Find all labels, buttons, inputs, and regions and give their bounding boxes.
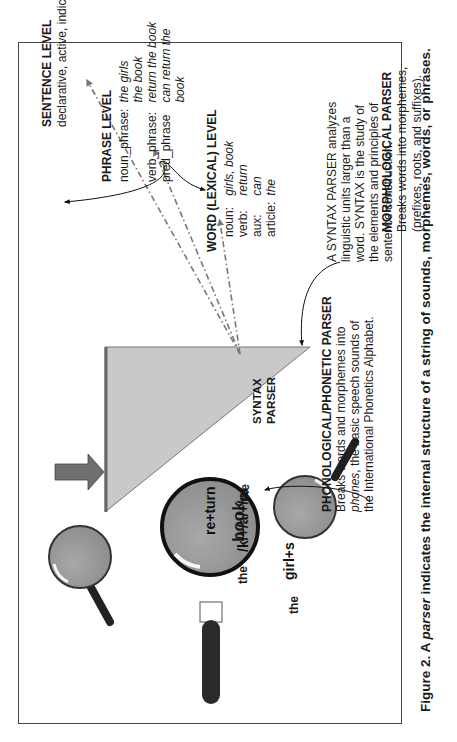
- word-level-table: noun:girls, book verb:return aux:can art…: [222, 135, 278, 237]
- word-level-title: WORD (LEXICAL) LEVEL: [205, 109, 219, 252]
- syntax-note-line-4: the elements and principles of: [367, 102, 381, 262]
- phrase-value-pred: can return the book: [159, 16, 187, 103]
- syntax-parser-label-2: PARSER: [264, 377, 278, 424]
- syntax-note-line-3: word. SYNTAX is the study of: [353, 102, 367, 262]
- syntax-note-line-1: A SYNTAX PARSER analyzes: [325, 102, 339, 262]
- morphological-parser-line-1: Breaks words into morphemes,: [395, 67, 409, 232]
- syntax-parser-label-1: SYNTAX: [250, 378, 264, 424]
- phrase-label-pred: pred_phrase: [159, 103, 187, 182]
- caption-suffix: indicates the internal structure of a st…: [418, 48, 433, 598]
- magnifier-left-prefix: the: [287, 596, 301, 614]
- sentence-level-desc: declarative, active, indicative: [55, 0, 69, 127]
- caption-prefix: Figure 2. A: [418, 639, 433, 712]
- word-label-noun: noun:: [222, 196, 236, 237]
- phrase-level-title: PHRASE LEVEL: [100, 90, 114, 182]
- magnifier-right-text: re+turn: [203, 486, 217, 535]
- diagram-canvas: SENTENCE LEVEL declarative, active, indi…: [0, 0, 457, 742]
- word-label-aux: aux:: [250, 196, 264, 237]
- word-label-article: article:: [264, 196, 278, 237]
- input-arrow: [55, 454, 104, 490]
- phrase-label-noun: noun_phrase:: [117, 103, 145, 182]
- phonological-line-2-rest: , the basic speech sounds of: [348, 321, 362, 473]
- magnifier-right-suffix: the: [238, 484, 252, 502]
- caption-italic: parser: [418, 598, 433, 639]
- phonological-line-2: phones, the basic speech sounds of: [348, 296, 362, 512]
- phones-term: phones: [348, 473, 362, 512]
- phrase-value-noun: the girls the book: [117, 16, 145, 103]
- phrase-level-table: noun_phrase: the girls the book verb_phr…: [117, 16, 187, 182]
- word-value-noun: girls, book: [222, 135, 236, 196]
- magnifier-girl-s: [49, 526, 111, 622]
- word-value-verb: return: [236, 135, 250, 196]
- input-word-the: the: [236, 566, 250, 584]
- phrase-label-verb: verb_phrase:: [145, 103, 159, 182]
- figure-caption: Figure 2. A parser indicates the interna…: [418, 48, 433, 712]
- syntax-note-line-2: linguistic units larger than a: [339, 102, 353, 262]
- word-label-verb: verb:: [236, 196, 250, 237]
- morphological-parser-title: MORPHOLOGICAL PARSER: [380, 72, 394, 232]
- phrase-value-verb: return the book: [145, 16, 159, 103]
- word-value-aux: can: [250, 135, 264, 196]
- sentence-level-title: SENTENCE LEVEL: [40, 20, 54, 127]
- word-value-article: the: [264, 135, 278, 196]
- phonological-line-3: the International Phonetics Alphabet.: [362, 296, 376, 512]
- magnifier-left-text: girl+s: [282, 542, 296, 580]
- phonological-line-1: Breaks words and morphemes into: [334, 296, 348, 512]
- phonological-parser-title: PHONOLOGICAL/PHONETIC PARSER: [320, 296, 334, 512]
- phonological-parser-note: PHONOLOGICAL/PHONETIC PARSER Breaks word…: [320, 296, 376, 512]
